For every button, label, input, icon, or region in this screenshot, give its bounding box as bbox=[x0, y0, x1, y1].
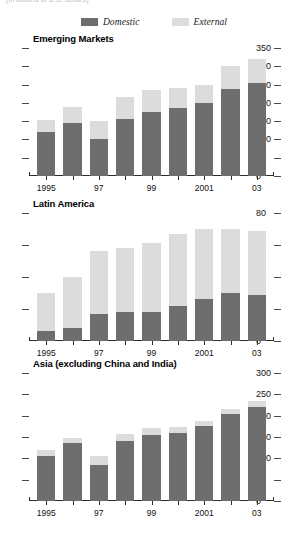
bar-segment-domestic bbox=[169, 306, 187, 341]
bar-segment-external bbox=[142, 243, 160, 312]
x-tick bbox=[257, 176, 258, 180]
x-tick-label: 1995 bbox=[37, 183, 56, 193]
chart-page: (In billions of U.S. dollars) DomesticEx… bbox=[0, 0, 308, 534]
chart-legend: DomesticExternal bbox=[0, 16, 308, 28]
plot-area: 05010015020025030035019959799200103 bbox=[33, 48, 270, 176]
x-tick bbox=[152, 176, 153, 180]
bar-segment-external bbox=[116, 97, 134, 119]
y-tick-left bbox=[22, 309, 29, 310]
x-tick bbox=[204, 176, 205, 180]
bar-segment-external bbox=[63, 107, 81, 123]
bar-segment-external bbox=[116, 248, 134, 312]
bar-1996 bbox=[63, 277, 81, 341]
bar-segment-domestic bbox=[248, 83, 266, 176]
bar-segment-external bbox=[248, 231, 266, 295]
bar-2003 bbox=[248, 59, 266, 176]
bar-2001 bbox=[195, 85, 213, 176]
bar-segment-domestic bbox=[37, 331, 55, 341]
x-tick bbox=[178, 341, 179, 345]
y-tick-label: 250 bbox=[256, 389, 286, 399]
y-tick-left bbox=[22, 277, 29, 278]
axis-end-cap-left bbox=[29, 337, 30, 341]
bar-2000 bbox=[169, 427, 187, 501]
bar-segment-domestic bbox=[142, 435, 160, 501]
y-tick-left bbox=[22, 121, 29, 122]
bar-1996 bbox=[63, 438, 81, 501]
bar-segment-domestic bbox=[142, 112, 160, 176]
bar-segment-domestic bbox=[63, 328, 81, 341]
bar-segment-external bbox=[169, 88, 187, 108]
bar-segment-external bbox=[169, 234, 187, 306]
y-tick-left bbox=[22, 103, 29, 104]
bar-segment-domestic bbox=[221, 414, 239, 501]
bar-segment-domestic bbox=[195, 103, 213, 176]
x-tick-label: 97 bbox=[94, 183, 103, 193]
y-tick-left bbox=[22, 66, 29, 67]
chart-panel-latin-america: Latin America 02040608019959799200103 bbox=[0, 195, 308, 355]
y-tick-left bbox=[22, 373, 29, 374]
x-tick bbox=[99, 341, 100, 345]
plot-area: 05010015020025030019959799200103 bbox=[33, 373, 270, 501]
bar-2003 bbox=[248, 231, 266, 341]
y-tick-left bbox=[22, 139, 29, 140]
x-tick bbox=[73, 501, 74, 505]
bar-segment-external bbox=[221, 229, 239, 293]
bar-segment-domestic bbox=[90, 314, 108, 341]
bar-segment-domestic bbox=[63, 443, 81, 501]
bar-segment-domestic bbox=[221, 89, 239, 176]
bar-2002 bbox=[221, 229, 239, 341]
bar-segment-domestic bbox=[90, 139, 108, 176]
bar-segment-domestic bbox=[63, 123, 81, 176]
x-tick-label: 1995 bbox=[37, 508, 56, 518]
panel-title: Emerging Markets bbox=[33, 33, 114, 44]
y-tick-left bbox=[22, 416, 29, 417]
x-tick bbox=[99, 501, 100, 505]
bar-segment-domestic bbox=[116, 119, 134, 176]
bar-1995 bbox=[37, 450, 55, 501]
x-tick bbox=[178, 176, 179, 180]
chart-panel-emerging-markets: Emerging Markets 05010015020025030035019… bbox=[0, 30, 308, 195]
x-tick bbox=[99, 176, 100, 180]
bar-2002 bbox=[221, 409, 239, 501]
bar-segment-domestic bbox=[195, 299, 213, 341]
x-tick bbox=[46, 176, 47, 180]
y-tick-left bbox=[22, 480, 29, 481]
axis-end-cap-left bbox=[29, 172, 30, 176]
bar-segment-external bbox=[195, 229, 213, 299]
x-tick bbox=[125, 176, 126, 180]
x-tick bbox=[125, 501, 126, 505]
bar-segment-external bbox=[221, 66, 239, 89]
y-tick-left bbox=[22, 158, 29, 159]
bar-segment-domestic bbox=[90, 465, 108, 501]
bar-1999 bbox=[142, 90, 160, 176]
x-tick-label: 03 bbox=[252, 508, 261, 518]
y-tick-left bbox=[22, 437, 29, 438]
x-tick bbox=[152, 501, 153, 505]
x-tick bbox=[204, 501, 205, 505]
x-tick bbox=[257, 501, 258, 505]
bar-1998 bbox=[116, 97, 134, 176]
bar-segment-external bbox=[142, 90, 160, 112]
bar-segment-domestic bbox=[248, 295, 266, 341]
bar-2002 bbox=[221, 66, 239, 176]
x-tick-label: 97 bbox=[94, 508, 103, 518]
bar-1997 bbox=[90, 456, 108, 501]
legend-item-domestic: Domestic bbox=[81, 17, 140, 27]
bar-segment-domestic bbox=[142, 312, 160, 341]
legend-swatch-external bbox=[172, 18, 189, 26]
bar-segment-external bbox=[248, 59, 266, 83]
x-tick-label: 99 bbox=[147, 183, 156, 193]
axis-end-cap-left bbox=[29, 497, 30, 501]
bar-1995 bbox=[37, 293, 55, 341]
x-tick bbox=[152, 341, 153, 345]
x-tick bbox=[231, 341, 232, 345]
legend-item-external: External bbox=[172, 17, 228, 27]
x-tick bbox=[231, 501, 232, 505]
legend-label: Domestic bbox=[103, 17, 140, 27]
bar-2001 bbox=[195, 229, 213, 341]
bar-segment-domestic bbox=[221, 293, 239, 341]
bar-2003 bbox=[248, 401, 266, 501]
bar-2000 bbox=[169, 88, 187, 176]
bar-segment-domestic bbox=[116, 441, 134, 501]
bar-2001 bbox=[195, 421, 213, 501]
